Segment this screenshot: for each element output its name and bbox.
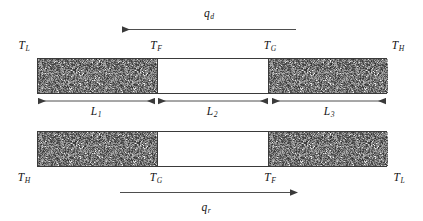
thermal-diagram: qd TL TF TG TH L1 L2 L3 TH <box>0 0 423 221</box>
arrow-overlay <box>0 0 423 221</box>
